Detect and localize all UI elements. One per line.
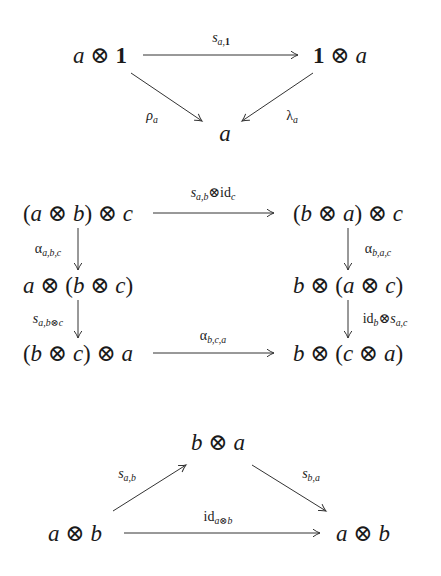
label-rho-a: ρa bbox=[146, 109, 158, 123]
label-alpha-abc: αa,b,c bbox=[35, 242, 61, 256]
node-a: a bbox=[219, 122, 231, 145]
node-text: b ⊗ a bbox=[191, 430, 245, 455]
node-bc-a: (b ⊗ c) ⊗ a bbox=[23, 342, 133, 365]
node-unit-tensor-a: 1 ⊗ a bbox=[313, 44, 367, 67]
node-a-tensor-b-left: a ⊗ b bbox=[48, 522, 102, 545]
node-text: b ⊗ (a ⊗ c) bbox=[293, 273, 403, 298]
node-a-tensor-unit: a ⊗ 1 bbox=[73, 44, 127, 67]
node-text: a ⊗ (b ⊗ c) bbox=[23, 273, 133, 298]
node-text: (a ⊗ b) ⊗ c bbox=[23, 201, 133, 226]
arrow-0-1 bbox=[131, 73, 202, 121]
node-text: (b ⊗ a) ⊗ c bbox=[293, 201, 403, 226]
label-id-a-tensor-b: ida⊗b bbox=[204, 510, 233, 524]
ls: a,b⊗c bbox=[38, 317, 63, 328]
ls: b,c,a bbox=[207, 334, 226, 345]
node-ab-c: (a ⊗ b) ⊗ c bbox=[23, 202, 133, 225]
lid: id bbox=[363, 311, 374, 326]
node-b-ac: b ⊗ (a ⊗ c) bbox=[293, 274, 403, 297]
ls: b,a,c bbox=[372, 247, 391, 258]
lt: ⊗ bbox=[208, 185, 220, 200]
ls: a⊗b bbox=[214, 515, 232, 526]
label-base: λ bbox=[286, 108, 293, 123]
node-a-tensor-b-right: a ⊗ b bbox=[336, 522, 390, 545]
ls: b,a bbox=[308, 472, 320, 483]
node-a-bc: a ⊗ (b ⊗ c) bbox=[23, 274, 133, 297]
label-alpha-bca: αb,c,a bbox=[200, 329, 226, 343]
node-ba-c: (b ⊗ a) ⊗ c bbox=[293, 202, 403, 225]
ls: a,b bbox=[124, 472, 136, 483]
lid: id bbox=[220, 185, 231, 200]
label-s-ab: sa,b bbox=[118, 467, 136, 481]
var-a: a bbox=[355, 43, 367, 68]
label-sub: a bbox=[153, 114, 158, 125]
lt: ⊗ bbox=[378, 311, 390, 326]
unit-one: 1 bbox=[115, 43, 127, 68]
ls: a,c bbox=[396, 317, 408, 328]
label-s-ab-tensor-id-c: sa,b⊗idc bbox=[191, 186, 236, 200]
node-b-tensor-a: b ⊗ a bbox=[191, 431, 245, 454]
label-lambda-a: λa bbox=[286, 109, 298, 123]
node-text: b ⊗ (c ⊗ a) bbox=[293, 341, 403, 366]
node-text: a ⊗ b bbox=[48, 521, 102, 546]
label-sub-one: 1 bbox=[225, 36, 230, 47]
tensor-symbol: ⊗ bbox=[85, 43, 116, 68]
label-s-a-1: sa,1 bbox=[212, 31, 230, 45]
unit-one: 1 bbox=[313, 43, 325, 68]
label-s-a-btensorc: sa,b⊗c bbox=[33, 312, 63, 326]
tensor-symbol: ⊗ bbox=[325, 43, 356, 68]
label-base: ρ bbox=[146, 108, 153, 123]
arrow-0-2 bbox=[242, 73, 313, 121]
node-b-ca: b ⊗ (c ⊗ a) bbox=[293, 342, 403, 365]
node-text: a ⊗ b bbox=[336, 521, 390, 546]
ls: a,b bbox=[196, 191, 208, 202]
ls: c bbox=[231, 191, 235, 202]
node-text: (b ⊗ c) ⊗ a bbox=[23, 341, 133, 366]
ls: a,b,c bbox=[42, 247, 61, 258]
label-s-ba: sb,a bbox=[302, 467, 320, 481]
label-sub: a bbox=[293, 114, 298, 125]
var-a: a bbox=[219, 121, 231, 146]
label-alpha-bac: αb,a,c bbox=[365, 242, 391, 256]
label-id-b-tensor-s-ac: idb⊗sa,c bbox=[363, 312, 408, 326]
var-a: a bbox=[73, 43, 85, 68]
lid: id bbox=[204, 509, 215, 524]
